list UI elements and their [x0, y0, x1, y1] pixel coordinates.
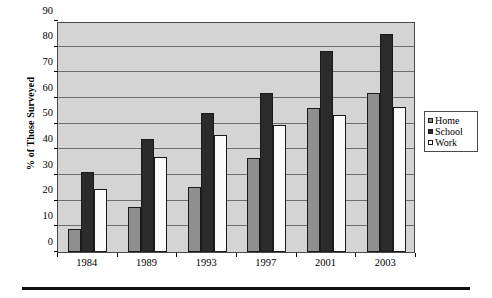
plot-area: 0102030405060708090 [57, 22, 415, 253]
bar-home-1993 [188, 187, 201, 252]
y-axis-tick-label: 40 [5, 134, 53, 145]
y-axis-tick-label: 80 [5, 31, 53, 42]
legend-label-school: School [435, 126, 463, 137]
bar-school-1993 [201, 113, 214, 252]
x-axis-tick-mark [117, 253, 118, 257]
bar-group [297, 23, 357, 252]
legend-label-home: Home [435, 115, 459, 126]
bar-work-1993 [214, 135, 227, 252]
y-axis-tick-label: 50 [5, 108, 53, 119]
bar-group [118, 23, 178, 252]
bar-home-1997 [247, 158, 260, 252]
x-axis-tick-label: 2003 [355, 257, 415, 268]
y-axis-tick-label: 60 [5, 82, 53, 93]
bar-work-1984 [94, 189, 107, 252]
legend-swatch-school-icon [428, 129, 433, 134]
bar-home-2001 [307, 108, 320, 252]
legend-swatch-home-icon [428, 118, 433, 123]
bar-group [237, 23, 297, 252]
bar-group [177, 23, 237, 252]
x-axis-tick-label: 2001 [296, 257, 356, 268]
y-axis-tick-label: 90 [5, 5, 53, 16]
x-axis-tick-label: 1984 [57, 257, 117, 268]
x-axis-tick-mark [176, 253, 177, 257]
y-axis-tick-label: 0 [5, 236, 53, 247]
bar-work-1997 [273, 125, 286, 252]
y-axis-tick-mark [54, 20, 58, 21]
x-axis-tick-mark [355, 253, 356, 257]
x-axis-tick-mark [57, 253, 58, 257]
chart-legend: Home School Work [424, 111, 478, 152]
bar-work-2003 [393, 107, 406, 252]
bar-group [58, 23, 118, 252]
x-axis-tick-mark [296, 253, 297, 257]
y-axis-title: % of Those Surveyed [25, 44, 36, 204]
bar-chart-figure: % of Those Surveyed 0102030405060708090 … [0, 0, 492, 298]
bar-work-1989 [154, 157, 167, 252]
bar-school-2003 [380, 34, 393, 252]
x-axis-tick-label: 1993 [176, 257, 236, 268]
legend-item-school: School [428, 126, 474, 137]
x-axis-tick-mark [236, 253, 237, 257]
legend-label-work: Work [435, 137, 457, 148]
y-axis-tick-label: 70 [5, 57, 53, 68]
bar-home-1984 [68, 229, 81, 252]
bar-group [356, 23, 416, 252]
bar-series-container [58, 23, 414, 252]
legend-swatch-work-icon [428, 140, 433, 145]
bar-school-2001 [320, 51, 333, 252]
y-axis-tick-label: 30 [5, 159, 53, 170]
bar-home-2003 [367, 93, 380, 252]
legend-item-work: Work [428, 137, 474, 148]
bottom-horizontal-rule [22, 287, 470, 290]
bar-home-1989 [128, 207, 141, 252]
bar-school-1989 [141, 139, 154, 252]
y-axis-tick-label: 10 [5, 211, 53, 222]
x-axis-tick-mark [415, 253, 416, 257]
x-axis-tick-label: 1997 [236, 257, 296, 268]
bar-school-1984 [81, 172, 94, 252]
bar-school-1997 [260, 93, 273, 252]
y-axis-tick-label: 20 [5, 185, 53, 196]
x-axis-tick-label: 1989 [117, 257, 177, 268]
bar-work-2001 [333, 115, 346, 252]
legend-item-home: Home [428, 115, 474, 126]
